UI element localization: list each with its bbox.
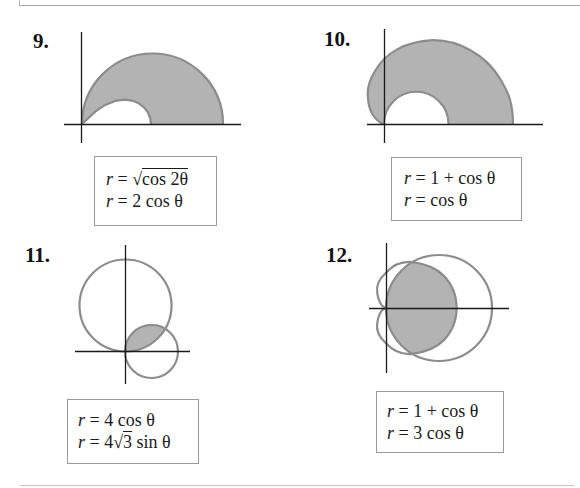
radicand: 3 — [123, 431, 132, 452]
equation-12-line-2: r = 3 cos θ — [387, 422, 503, 444]
rhs-tail: sin θ — [132, 432, 171, 452]
equation-box-12: r = 1 + cos θ r = 3 cos θ — [376, 391, 504, 453]
variable-r: r — [78, 432, 85, 452]
equals-sign: = — [411, 168, 430, 188]
rhs: 1 + cos θ — [430, 168, 495, 188]
rhs: cos θ — [430, 190, 467, 210]
section-divider — [20, 485, 574, 486]
variable-r: r — [78, 410, 85, 430]
radicand: cos 2θ — [142, 168, 188, 189]
equals-sign: = — [85, 432, 104, 452]
equals-sign: = — [113, 169, 132, 189]
sqrt-symbol: √ — [132, 168, 142, 190]
variable-r: r — [387, 423, 394, 443]
equation-12-line-1: r = 1 + cos θ — [387, 400, 503, 422]
rhs: 2 cos θ — [132, 191, 183, 211]
rhs: 4 cos θ — [104, 410, 155, 430]
equation-11-line-1: r = 4 cos θ — [78, 409, 198, 431]
equation-box-11: r = 4 cos θ r = 4√3 sin θ — [67, 399, 199, 464]
rhs: 3 cos θ — [413, 423, 464, 443]
equals-sign: = — [394, 423, 413, 443]
equals-sign: = — [85, 410, 104, 430]
equals-sign: = — [394, 401, 413, 421]
equation-10-line-2: r = cos θ — [404, 189, 521, 211]
equals-sign: = — [113, 191, 132, 211]
shaded-region-10 — [368, 40, 513, 124]
coefficient: 4 — [104, 432, 113, 452]
variable-r: r — [404, 190, 411, 210]
variable-r: r — [387, 401, 394, 421]
equation-box-10: r = 1 + cos θ r = cos θ — [391, 157, 522, 221]
equation-11-line-2: r = 4√3 sin θ — [78, 431, 198, 453]
figure-9 — [64, 32, 241, 143]
figure-10 — [367, 29, 543, 143]
equation-10-line-1: r = 1 + cos θ — [404, 167, 521, 189]
figure-12 — [369, 243, 509, 373]
rhs: 1 + cos θ — [413, 401, 478, 421]
variable-r: r — [404, 168, 411, 188]
variable-r: r — [106, 169, 113, 189]
figure-11 — [75, 245, 190, 384]
equation-box-9: r = √cos 2θ r = 2 cos θ — [94, 156, 217, 226]
equation-9-line-2: r = 2 cos θ — [106, 190, 216, 212]
sqrt-symbol: √ — [113, 431, 123, 453]
equals-sign: = — [411, 190, 430, 210]
variable-r: r — [106, 191, 113, 211]
equation-9-line-1: r = √cos 2θ — [106, 168, 216, 190]
shaded-region-9 — [82, 54, 223, 125]
